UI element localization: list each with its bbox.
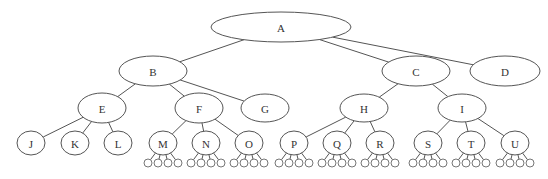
leaf-edge-S-2	[424, 155, 425, 159]
leaf-circle-Q-3	[338, 159, 346, 167]
leaf-edge-U-1	[502, 153, 507, 160]
leaf-circle-P-1	[275, 159, 283, 167]
node-label: S	[425, 138, 431, 150]
leaf-edge-S-1	[415, 153, 420, 160]
leaf-edge-S-3	[431, 155, 432, 159]
node-label: F	[196, 103, 202, 115]
leaf-circle-R-1	[361, 159, 369, 167]
leaf-edge-N-1	[193, 153, 198, 160]
leaf-circle-U-4	[526, 159, 534, 167]
edge-A-C	[319, 40, 388, 63]
leaf-circle-P-3	[295, 159, 303, 167]
leaf-circle-O-2	[240, 159, 248, 167]
edge-F-O	[215, 119, 238, 135]
leaf-edge-Q-1	[324, 153, 329, 160]
node-label: U	[511, 138, 519, 150]
leaf-edge-M-3	[166, 155, 167, 159]
leaf-edge-P-4	[302, 153, 307, 160]
leaf-circle-U-1	[496, 159, 504, 167]
leaf-circle-P-4	[305, 159, 313, 167]
node-label: M	[158, 138, 168, 150]
leaf-edge-R-4	[388, 153, 393, 160]
node-label: I	[460, 103, 464, 115]
leaf-edge-R-3	[383, 155, 384, 159]
leaf-circle-N-3	[207, 159, 215, 167]
node-A: A	[211, 12, 351, 42]
edge-I-T	[466, 122, 468, 131]
leaf-circle-S-2	[419, 159, 427, 167]
edge-E-L	[109, 122, 113, 131]
node-label: K	[71, 138, 79, 150]
node-O: O	[235, 131, 263, 155]
leaf-circle-S-1	[409, 159, 417, 167]
leaf-edge-O-1	[236, 153, 241, 160]
node-C: C	[382, 56, 450, 86]
leaf-circle-N-1	[187, 159, 195, 167]
leaf-circle-T-1	[452, 159, 460, 167]
edge-F-N	[202, 123, 204, 131]
leaf-circle-T-2	[462, 159, 470, 167]
node-label: Q	[333, 138, 341, 150]
leaf-circle-Q-1	[318, 159, 326, 167]
leaf-circle-M-2	[154, 159, 162, 167]
node-label: N	[202, 138, 210, 150]
leaf-edge-U-4	[523, 153, 528, 160]
node-label: P	[291, 138, 297, 150]
leaf-edge-S-4	[436, 153, 441, 160]
leaf-circle-T-4	[482, 159, 490, 167]
leaf-circle-T-3	[472, 159, 480, 167]
leaf-edge-M-4	[171, 153, 176, 160]
node-K: K	[61, 131, 89, 155]
node-B: B	[119, 56, 187, 86]
leaf-edge-T-4	[479, 153, 484, 160]
leaf-circle-R-2	[371, 159, 379, 167]
node-T: T	[457, 131, 485, 155]
leaf-circle-O-1	[230, 159, 238, 167]
leaf-edge-U-2	[511, 155, 512, 159]
node-H: H	[340, 94, 388, 122]
node-R: R	[366, 131, 394, 155]
leaf-edge-N-2	[202, 155, 203, 159]
leaf-edge-M-2	[159, 155, 160, 159]
leaf-circle-M-4	[174, 159, 182, 167]
leaf-edge-O-2	[245, 155, 246, 159]
leaf-circle-O-4	[260, 159, 268, 167]
leaf-circle-N-4	[217, 159, 225, 167]
tree-diagram: ABCDEFGHIJKLMNOPQRSTU	[0, 0, 548, 179]
leaf-edge-N-4	[214, 153, 219, 160]
leaf-edge-Q-2	[333, 155, 334, 159]
node-P: P	[280, 131, 308, 155]
edge-B-F	[169, 84, 184, 96]
node-label: T	[468, 138, 475, 150]
leaf-circles-layer	[144, 159, 534, 167]
leaf-edge-O-4	[257, 153, 262, 160]
edge-E-K	[83, 122, 92, 133]
leaf-edge-T-3	[474, 155, 475, 159]
leaf-edge-O-3	[252, 155, 253, 159]
node-G: G	[241, 94, 289, 122]
leaf-circle-U-2	[506, 159, 514, 167]
leaf-edge-M-1	[150, 153, 155, 160]
leaf-circle-Q-4	[348, 159, 356, 167]
node-label: L	[115, 138, 122, 150]
leaf-edge-N-3	[209, 155, 210, 159]
leaf-circle-U-3	[516, 159, 524, 167]
leaf-circle-O-3	[250, 159, 258, 167]
edge-H-R	[370, 122, 375, 132]
edge-C-I	[432, 84, 448, 97]
edge-C-H	[379, 84, 398, 97]
edge-I-U	[478, 118, 504, 135]
node-I: I	[438, 94, 486, 122]
node-J: J	[17, 131, 45, 155]
edge-F-M	[172, 121, 186, 134]
node-M: M	[149, 131, 177, 155]
edge-I-S	[437, 120, 450, 134]
node-N: N	[192, 131, 220, 155]
node-label: A	[277, 22, 285, 34]
node-U: U	[501, 131, 529, 155]
node-label: G	[261, 103, 269, 115]
node-D: D	[470, 56, 540, 86]
leaf-edge-P-1	[281, 153, 286, 160]
leaf-edge-P-3	[297, 155, 298, 159]
node-label: R	[376, 138, 384, 150]
